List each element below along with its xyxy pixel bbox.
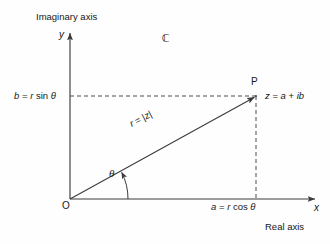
- x-axis-symbol: x: [314, 203, 319, 213]
- z-value-label: z = a + ib: [265, 91, 304, 101]
- imaginary-component-label: b = r sin θ: [14, 91, 56, 101]
- radius-vector-line: [70, 97, 255, 199]
- point-p-marker: [255, 95, 257, 97]
- cos-function: cos: [233, 201, 248, 212]
- real-axis-label: Real axis: [265, 222, 304, 232]
- angle-arc: [122, 172, 128, 199]
- argand-diagram-figure: Imaginary axis Real axis y x O P ℂ z = a…: [0, 0, 330, 244]
- real-component-label: a = r cos θ: [211, 202, 256, 212]
- b-theta: θ: [48, 90, 56, 101]
- z-plus: +: [286, 90, 297, 101]
- imaginary-axis-label: Imaginary axis: [36, 12, 97, 22]
- a-theta: θ: [248, 201, 256, 212]
- sin-function: sin: [36, 90, 48, 101]
- z-equals: =: [270, 90, 281, 101]
- complex-plane-symbol: ℂ: [162, 33, 170, 44]
- theta-angle-label: θ: [109, 168, 114, 179]
- y-axis-symbol: y: [59, 30, 64, 40]
- point-p-label: P: [251, 77, 258, 87]
- a-equals: =: [216, 201, 227, 212]
- z-imag-part: b: [299, 90, 304, 101]
- b-equals: =: [19, 90, 30, 101]
- origin-symbol: O: [62, 201, 70, 211]
